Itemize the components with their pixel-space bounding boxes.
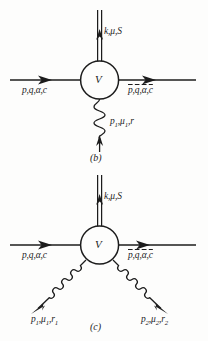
fermion-out-label-b: p,q,α,c [128, 85, 153, 95]
gluon-label-b: p1,μ1,r [110, 116, 134, 128]
fermion-out-line-c [119, 240, 196, 249]
diagram-b [10, 10, 196, 152]
photon-double-line-c [96, 175, 103, 227]
fermion-in-line-c [10, 240, 81, 249]
fermion-out-label-c: p,q,α,c [128, 250, 153, 260]
photon-double-line-b [96, 10, 103, 62]
fermion-out-line-b [119, 75, 196, 84]
fermion-in-label-b: p,q,α,c [22, 85, 47, 95]
photon-label-b: k,μ,S [104, 26, 122, 36]
gluon-right-label-c: p2,μ2,r2 [141, 314, 168, 326]
diagram-c [10, 175, 196, 314]
vertex-label-b: V [95, 73, 102, 85]
feynman-diagrams-canvas [0, 0, 208, 341]
gluon-left-label-c: p1,μ1,r1 [31, 314, 58, 326]
gluon-arrow-left-c [31, 304, 45, 315]
gluon-coil-left-c [38, 260, 86, 309]
gluon-coil-b [94, 99, 105, 139]
photon-label-c: k,μ,S [104, 191, 122, 201]
gluon-coil-right-c [113, 260, 161, 309]
figure-root: V k,μ,S p,q,α,c p,q,α,c p1,μ1,r (b) V k,… [0, 0, 208, 341]
caption-c: (c) [90, 321, 101, 332]
gluon-arrow-right-c [154, 304, 168, 315]
fermion-in-label-c: p,q,α,c [22, 250, 47, 260]
vertex-label-c: V [95, 238, 102, 250]
caption-b: (b) [90, 152, 102, 163]
fermion-in-line-b [10, 75, 81, 84]
